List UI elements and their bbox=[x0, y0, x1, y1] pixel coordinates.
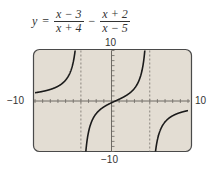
graph-plot bbox=[0, 0, 213, 169]
